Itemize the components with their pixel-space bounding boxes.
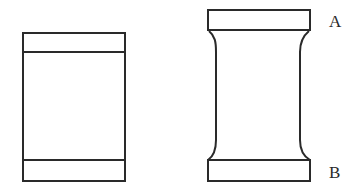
right-specimen <box>208 10 310 181</box>
label-a: A <box>329 13 341 30</box>
left-specimen <box>23 33 125 181</box>
right-specimen-bottom-cap <box>208 160 310 181</box>
label-b: B <box>329 164 340 181</box>
right-specimen-left-side <box>208 31 216 160</box>
right-specimen-top-cap <box>208 10 310 30</box>
left-specimen-outline <box>23 33 125 181</box>
right-specimen-right-side <box>300 31 310 160</box>
diagram-canvas <box>0 0 359 196</box>
